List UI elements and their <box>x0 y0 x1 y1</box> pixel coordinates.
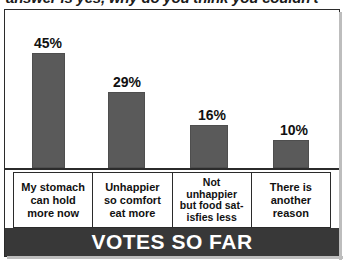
category-label-text: There is another reason <box>270 181 312 220</box>
bar-value-label: 16% <box>173 108 251 123</box>
votes-so-far-label: VOTES SO FAR <box>91 230 252 254</box>
bar-chart-plot-area: 45% 29% 16% 10% <box>5 10 339 168</box>
bar-rect <box>273 140 309 168</box>
question-text: answer is yes, why do you think you coul… <box>6 0 318 6</box>
clipped-question-text: answer is yes, why do you think you coul… <box>0 0 348 9</box>
category-label-cell: My stomach can hold more now <box>14 173 93 227</box>
category-label-text: Unhappier so comfort eat more <box>104 181 161 220</box>
category-label-cell: Not unhappier but food sat- isfies less <box>173 173 252 227</box>
bar-rect <box>32 53 65 168</box>
frame-shadow-bottom <box>7 256 343 259</box>
frame-shadow-right <box>339 12 342 260</box>
category-label-text: Not unhappier but food sat- isfies less <box>180 177 244 223</box>
category-label-text: My stomach can hold more now <box>21 181 85 220</box>
category-label-row: My stomach can hold more now Unhappier s… <box>13 172 331 228</box>
bar-group: 29% <box>88 10 166 168</box>
bar-group: 45% <box>9 10 87 168</box>
bar-value-label: 10% <box>255 123 333 138</box>
bar-group: 10% <box>255 10 333 168</box>
poll-chart-frame: 45% 29% 16% 10% My stomach can hold more… <box>4 9 340 257</box>
axis-baseline <box>5 168 339 170</box>
bar-rect <box>190 125 228 168</box>
category-label-cell: There is another reason <box>252 173 330 227</box>
bar-value-label: 45% <box>9 36 87 51</box>
votes-so-far-banner: VOTES SO FAR <box>5 228 339 256</box>
bar-group: 16% <box>173 10 251 168</box>
bar-value-label: 29% <box>88 75 166 90</box>
bar-rect <box>108 92 145 168</box>
category-label-cell: Unhappier so comfort eat more <box>93 173 172 227</box>
